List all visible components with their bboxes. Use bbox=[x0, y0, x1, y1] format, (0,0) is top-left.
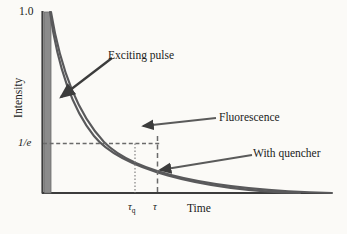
y-axis-one-over-e-label: 1/e bbox=[18, 137, 31, 148]
annotation-exciting-pulse: Exciting pulse bbox=[108, 50, 174, 62]
figure-canvas: 1.0 1/e Intensity Time τq τ Exciting pul… bbox=[0, 0, 347, 234]
fluorescence-leader bbox=[143, 118, 216, 126]
fluorescence-curve bbox=[51, 12, 332, 193]
annotation-with-quencher: With quencher bbox=[253, 148, 321, 160]
exciting-pulse-leader bbox=[61, 58, 112, 97]
x-tick-tau: τ bbox=[153, 202, 157, 213]
tau-q-subscript: q bbox=[132, 206, 136, 215]
with-quencher-leader bbox=[160, 155, 252, 170]
annotation-fluorescence: Fluorescence bbox=[219, 112, 280, 124]
x-axis-title: Time bbox=[187, 203, 211, 215]
with-quencher-curve bbox=[50, 12, 300, 193]
decay-curve-chart bbox=[0, 0, 347, 234]
y-axis-title: Intensity bbox=[13, 63, 25, 133]
y-axis-max-label: 1.0 bbox=[19, 6, 33, 18]
x-tick-tau-q: τq bbox=[128, 202, 136, 215]
exciting-pulse-bar bbox=[45, 12, 52, 193]
